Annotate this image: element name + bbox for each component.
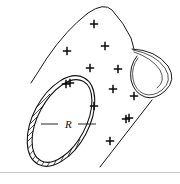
charge-plus-icon xyxy=(130,92,138,100)
charge-plus-icon xyxy=(106,137,114,145)
charge-plus-icon xyxy=(90,20,98,28)
charge-plus-icon xyxy=(109,85,117,93)
cylinder-diagram: R xyxy=(0,0,180,184)
bottom-edge-line xyxy=(100,100,152,167)
charge-plus-icon xyxy=(86,64,94,72)
bottom-margin-band xyxy=(0,173,180,184)
radius-label: R xyxy=(64,118,72,130)
rolled-edge-loop xyxy=(131,49,172,98)
loop-fold-curve xyxy=(134,52,162,88)
figure-canvas: R xyxy=(0,0,180,184)
charge-plus-icon xyxy=(101,42,109,50)
loop-inner-curve xyxy=(133,50,169,95)
charge-symbols-layer xyxy=(62,20,138,145)
charge-plus-icon xyxy=(63,47,71,55)
charge-plus-icon xyxy=(114,65,122,73)
cylinder-end-ring xyxy=(0,40,109,184)
